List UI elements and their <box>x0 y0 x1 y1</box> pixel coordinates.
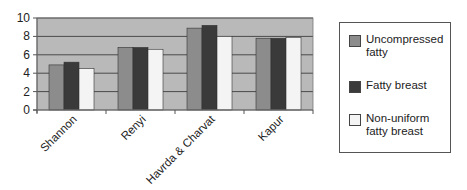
y-tick-label: 8 <box>23 29 30 43</box>
bar <box>217 36 232 110</box>
legend-item-non-uniform-fatty-breast: Non-uniform fatty breast <box>349 112 454 138</box>
x-tick-label: Havrda & Charvat <box>144 112 218 186</box>
bar <box>286 37 301 110</box>
y-tick-label: 10 <box>17 11 31 25</box>
legend-label: Uncompressed fatty <box>366 33 454 59</box>
bar <box>64 62 79 110</box>
legend: Uncompressed fatty Fatty breast Non-unif… <box>339 22 451 153</box>
legend-item-fatty-breast: Fatty breast <box>349 79 454 93</box>
y-axis-ticks: 0246810 <box>17 11 37 117</box>
y-tick-label: 6 <box>23 48 30 62</box>
y-tick-label: 2 <box>23 85 30 99</box>
legend-swatch-uncompressed-fatty <box>349 35 361 47</box>
legend-swatch-fatty-breast <box>349 81 361 93</box>
bar <box>202 25 217 110</box>
legend-label: Non-uniform fatty breast <box>366 112 454 138</box>
y-tick-label: 4 <box>23 66 30 80</box>
bar <box>148 49 163 110</box>
bar <box>79 69 94 110</box>
bar <box>118 47 133 110</box>
bar <box>49 65 64 110</box>
x-tick-label: Kapur <box>256 113 286 143</box>
legend-item-uncompressed-fatty: Uncompressed fatty <box>349 33 454 59</box>
x-axis-labels: ShannonRenyiHavrda & CharvatKapur <box>38 112 286 186</box>
bar <box>187 28 202 110</box>
y-tick-label: 0 <box>23 103 30 117</box>
x-tick-label: Renyi <box>119 113 148 142</box>
bar <box>271 38 286 110</box>
legend-swatch-non-uniform-fatty-breast <box>349 114 361 126</box>
legend-label: Fatty breast <box>366 79 454 92</box>
bar <box>256 38 271 110</box>
x-tick-label: Shannon <box>38 113 79 154</box>
bar <box>133 47 148 110</box>
